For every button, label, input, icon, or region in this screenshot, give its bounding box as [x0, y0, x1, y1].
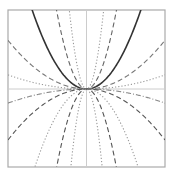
parabola-family-chart — [0, 0, 172, 175]
